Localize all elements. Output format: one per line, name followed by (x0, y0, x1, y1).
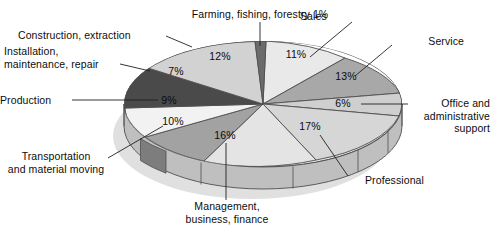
pie-chart: 11% 13% 6% 17% 16% 10% 9% 7% 12% Farming… (0, 0, 492, 240)
slice-percent-management: 16% (211, 129, 239, 141)
slice-percent-transportation: 10% (159, 115, 187, 127)
slice-percent-production: 9% (157, 94, 181, 106)
label-installation-maintenance-repair: Installation, maintenance, repair (4, 45, 116, 70)
label-construction-extraction: Construction, extraction (18, 29, 162, 42)
label-professional: Professional (344, 174, 424, 187)
label-transportation-material-moving: Transportation and material moving (2, 150, 110, 175)
leader-sales (310, 22, 352, 57)
label-sales: Sales (300, 10, 368, 23)
leader-construction (166, 36, 192, 47)
slice-percent-construction: 12% (206, 50, 234, 62)
label-service: Service (394, 35, 464, 48)
slice-percent-professional: 17% (296, 120, 324, 132)
label-office-administrative-support: Office and administrative support (412, 97, 490, 135)
leader-installation (120, 64, 150, 71)
slice-percent-office: 6% (331, 97, 355, 109)
label-production: Production (0, 94, 68, 107)
slice-percent-installation: 7% (164, 65, 188, 77)
slice-percent-service: 13% (332, 70, 360, 82)
slice-percent-sales: 11% (282, 48, 310, 60)
label-management-business-finance: Management, business, finance (166, 200, 288, 225)
